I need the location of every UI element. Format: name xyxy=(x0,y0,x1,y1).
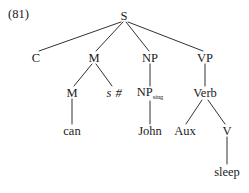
tree-node-label: Verb xyxy=(193,86,217,100)
tree-edge-verb-aux xyxy=(186,100,202,124)
tree-node-label: sleep xyxy=(214,165,240,179)
tree-node-label: M xyxy=(66,86,77,100)
tree-edge-m1-m2 xyxy=(74,64,92,86)
tree-node-label: NP xyxy=(137,85,153,99)
tree-node-label: C xyxy=(32,51,40,65)
tree-node-label: NP xyxy=(142,51,158,65)
tree-node-sleep: sleep xyxy=(214,166,240,179)
tree-edge-m1-shash xyxy=(96,64,112,86)
tree-node-label: Aux xyxy=(174,124,196,138)
tree-node-m1: M xyxy=(88,52,99,65)
tree-edge-verb-v xyxy=(208,100,225,124)
tree-node-v: V xyxy=(222,125,231,138)
tree-node-np: NP xyxy=(142,52,158,65)
syntax-tree-figure: (81) SCMNPVPMs #NPsingVerbcanJohnAuxVsle… xyxy=(0,0,249,193)
tree-edge-s-c xyxy=(39,22,121,51)
tree-node-m2: M xyxy=(66,87,77,100)
tree-node-c: C xyxy=(32,52,40,65)
tree-node-vp: VP xyxy=(197,52,213,65)
tree-edge-s-vp xyxy=(128,22,203,51)
tree-node-shash: s # xyxy=(106,87,121,100)
tree-node-verb: Verb xyxy=(193,87,217,100)
tree-node-label: VP xyxy=(197,51,213,65)
tree-node-can: can xyxy=(63,125,80,138)
example-number-label: (81) xyxy=(8,8,29,21)
tree-node-s: S xyxy=(121,10,128,23)
tree-node-aux: Aux xyxy=(174,125,196,138)
tree-node-label: s xyxy=(106,86,111,100)
tree-node-npsing: NPsing xyxy=(137,86,163,101)
tree-edge-s-m1 xyxy=(96,22,123,51)
tree-node-label: John xyxy=(138,124,162,138)
tree-node-label: M xyxy=(88,51,99,65)
tree-node-label: V xyxy=(222,124,231,138)
tree-edge-s-np xyxy=(126,22,149,51)
tree-node-john: John xyxy=(138,125,162,138)
tree-node-label: can xyxy=(63,124,80,138)
tree-node-label: S xyxy=(121,9,128,23)
boundary-hash-symbol: # xyxy=(114,86,121,100)
tree-node-subscript: sing xyxy=(153,93,163,100)
